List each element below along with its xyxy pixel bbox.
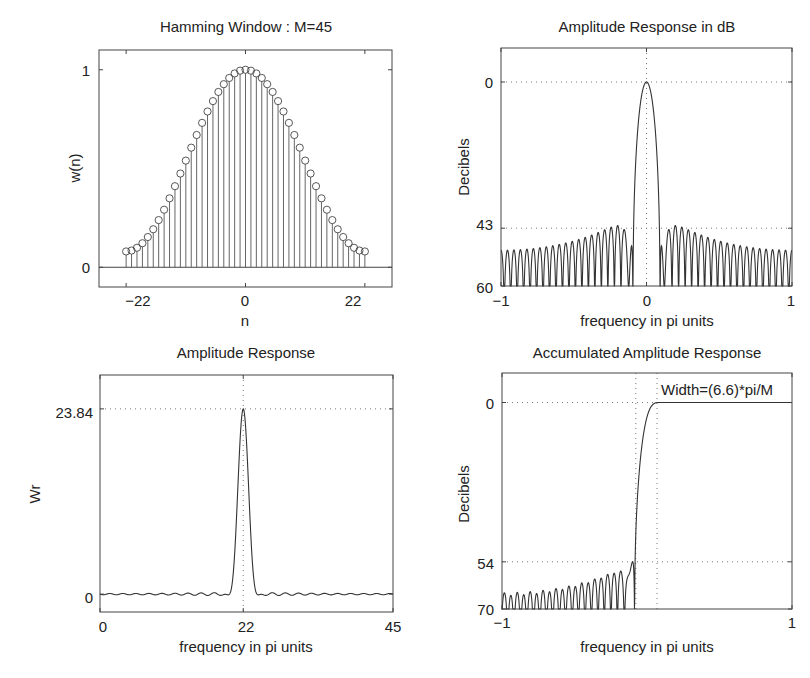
panel-amplitude-response-db: Amplitude Response in dB 0 43 60 −1 0 1 … xyxy=(455,18,795,329)
stem-marker xyxy=(274,98,281,105)
y-axis-label: Decibels xyxy=(455,465,472,523)
chart-title: Amplitude Response xyxy=(177,344,315,361)
x-axis-label: n xyxy=(241,312,249,329)
stem-marker xyxy=(139,240,146,247)
xtick-label: 22 xyxy=(238,618,255,635)
xtick-label: 0 xyxy=(99,618,107,635)
xtick-label: 22 xyxy=(345,292,362,309)
xtick-label: 1 xyxy=(787,292,795,309)
panel-hamming-window: Hamming Window : M=45 1 0 −22 0 22 n w(n… xyxy=(66,18,392,329)
stem-marker xyxy=(361,248,368,255)
stem-marker xyxy=(280,108,287,115)
stem-marker xyxy=(258,74,265,81)
stem-marker xyxy=(269,88,276,95)
stem-marker xyxy=(166,195,173,202)
stem-marker xyxy=(302,157,309,164)
xtick-label: 0 xyxy=(241,292,249,309)
stem-marker xyxy=(204,108,211,115)
amplitude-response-curve xyxy=(100,409,393,596)
ytick-label: 0 xyxy=(486,395,494,412)
x-axis-label: frequency in pi units xyxy=(580,638,713,655)
ytick-label: 1 xyxy=(82,62,90,79)
xtick-label: 45 xyxy=(385,618,402,635)
stem-marker xyxy=(215,88,222,95)
xtick-label: 0 xyxy=(643,292,651,309)
ytick-label: 60 xyxy=(476,279,493,296)
stem-marker xyxy=(193,131,200,138)
xtick-label: 1 xyxy=(788,614,796,631)
axes-frame xyxy=(100,375,393,612)
stem-marker xyxy=(340,233,347,240)
chart-title: Hamming Window : M=45 xyxy=(160,18,332,35)
ytick-label: 70 xyxy=(477,601,494,618)
stem-marker xyxy=(296,144,303,151)
stem-marker xyxy=(161,206,168,213)
stem-marker xyxy=(177,170,184,177)
ytick-label: 0 xyxy=(85,589,93,606)
stem-marker xyxy=(198,119,205,126)
stem-marker xyxy=(150,226,157,233)
y-axis-label: Decibels xyxy=(455,138,472,196)
chart-title: Amplitude Response in dB xyxy=(559,18,736,35)
stem-marker xyxy=(291,131,298,138)
xtick-label: −1 xyxy=(492,292,509,309)
accumulated-response-curve xyxy=(501,403,791,610)
stem-marker xyxy=(318,195,325,202)
curve-group xyxy=(501,403,791,610)
x-axis-label: frequency in pi units xyxy=(179,638,312,655)
y-axis-label: w(n) xyxy=(66,153,83,183)
axes-frame xyxy=(502,373,792,609)
ytick-label: 54 xyxy=(477,555,494,572)
y-axis-label: Wr xyxy=(26,485,43,504)
ytick-label: 23.84 xyxy=(55,404,93,421)
ytick-label: 0 xyxy=(485,74,493,91)
panel-accumulated-amplitude-response: Accumulated Amplitude Response Width=(6.… xyxy=(455,344,796,655)
width-annotation: Width=(6.6)*pi/M xyxy=(661,381,773,398)
ytick-label: 43 xyxy=(476,216,493,233)
stem-marker xyxy=(285,119,292,126)
stem-marker xyxy=(171,183,178,190)
figure: Hamming Window : M=45 1 0 −22 0 22 n w(n… xyxy=(0,0,810,678)
stem-marker xyxy=(155,216,162,223)
stem-marker xyxy=(334,226,341,233)
ytick-label: 0 xyxy=(82,259,90,276)
stem-marker xyxy=(312,183,319,190)
stem-marker xyxy=(264,81,271,88)
stem-marker xyxy=(329,216,336,223)
stem-marker xyxy=(323,206,330,213)
stem-marker xyxy=(220,81,227,88)
xtick-label: −22 xyxy=(125,292,150,309)
xtick-label: −1 xyxy=(493,614,510,631)
stem-marker xyxy=(209,98,216,105)
panel-amplitude-response: Amplitude Response 23.84 0 0 22 45 frequ… xyxy=(26,344,401,655)
stem-marker xyxy=(188,144,195,151)
stem-marker xyxy=(307,170,314,177)
stem-marker xyxy=(144,233,151,240)
x-axis-label: frequency in pi units xyxy=(580,312,713,329)
chart-title: Accumulated Amplitude Response xyxy=(533,344,761,361)
stem-marker xyxy=(182,157,189,164)
